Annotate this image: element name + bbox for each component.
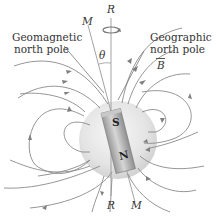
magnetic-axis-label-bottom: M [131, 200, 142, 211]
geographic-pole-label-line2: north pole [150, 44, 205, 55]
magnet-north-pole-label: N [118, 149, 130, 162]
magnet-south-pole-label: S [112, 117, 120, 128]
geographic-pole-label-line1: Geographic [150, 32, 212, 43]
theta-label: θ [99, 50, 105, 61]
field-b-label: B [157, 60, 165, 71]
rotation-axis-label-top: R [107, 4, 115, 15]
rotation-axis-label-bottom: R [107, 200, 115, 211]
geomagnetic-pole-label-line2: north pole [14, 44, 69, 55]
geomagnetic-pole-label-line1: Geomagnetic [12, 32, 82, 43]
geomagnetic-leader [64, 46, 104, 93]
theta-arc [99, 63, 111, 64]
geographic-leader [118, 51, 144, 100]
magnetic-axis-label-top: M [82, 16, 93, 27]
field-vector-arrow-icon [156, 58, 165, 59]
